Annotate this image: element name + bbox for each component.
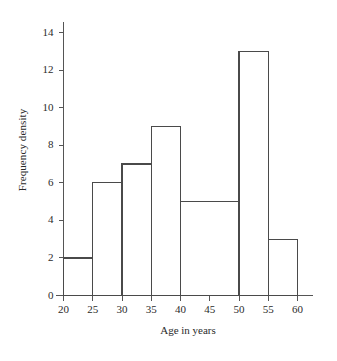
x-tick-label: 60 <box>292 303 304 315</box>
histogram-bar <box>239 51 268 295</box>
histogram-chart: Frequency density Age in years 024681012… <box>0 0 337 361</box>
y-tick-label: 2 <box>48 251 54 263</box>
x-tick-label: 25 <box>87 303 99 315</box>
histogram-bar <box>268 239 297 295</box>
x-tick-label: 55 <box>263 303 275 315</box>
x-tick-label: 45 <box>204 303 216 315</box>
x-tick-label: 20 <box>58 303 70 315</box>
histogram-bar <box>151 126 180 295</box>
x-tick-label: 30 <box>117 303 129 315</box>
histogram-bar <box>93 183 122 296</box>
x-tick-label: 40 <box>175 303 187 315</box>
plot-area: 02468101214 202530354045505560 <box>0 0 337 361</box>
histogram-bar <box>181 202 240 296</box>
y-axis-group: 02468101214 <box>43 22 64 301</box>
y-tick-label: 12 <box>43 63 54 75</box>
y-tick-label: 6 <box>48 176 54 188</box>
y-tick-group: 02468101214 <box>43 26 64 301</box>
bar-group <box>64 51 298 295</box>
x-tick-label: 35 <box>146 303 158 315</box>
x-tick-group: 202530354045505560 <box>58 296 304 315</box>
y-tick-label: 10 <box>43 101 55 113</box>
x-axis-group: 202530354045505560 <box>56 296 314 315</box>
y-tick-label: 8 <box>48 138 54 150</box>
y-tick-label: 14 <box>43 26 55 38</box>
histogram-bar <box>122 164 151 296</box>
y-tick-label: 0 <box>48 289 54 301</box>
x-tick-label: 50 <box>234 303 246 315</box>
histogram-bar <box>64 258 93 296</box>
y-tick-label: 4 <box>48 213 54 225</box>
